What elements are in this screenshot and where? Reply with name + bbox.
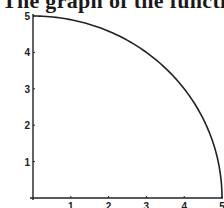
x-tick-label: 2 xyxy=(106,201,112,208)
chart-plot: 12345 12345 xyxy=(0,0,224,208)
x-tick-label: 1 xyxy=(68,201,74,208)
x-tick-label: 5 xyxy=(219,201,224,208)
y-tick-label: 4 xyxy=(24,47,30,58)
y-tick-label: 2 xyxy=(24,120,30,131)
y-tick-label: 1 xyxy=(24,157,30,168)
y-tick-label: 3 xyxy=(24,84,30,95)
data-curve xyxy=(33,16,222,198)
y-tick-label: 5 xyxy=(24,11,30,22)
x-tick-label: 4 xyxy=(181,201,187,208)
x-tick-label: 3 xyxy=(144,201,150,208)
